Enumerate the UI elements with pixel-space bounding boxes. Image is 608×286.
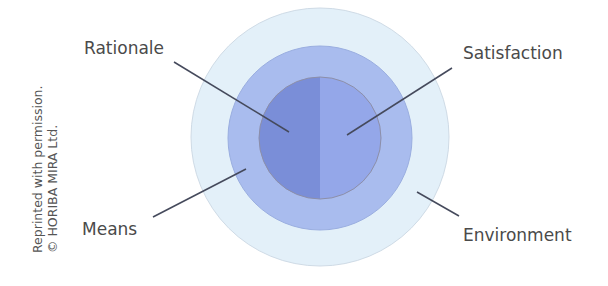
environment-label: Environment <box>463 227 572 244</box>
credit-line-1: Reprinted with permission. <box>30 85 45 253</box>
rationale-label: Rationale <box>84 40 164 57</box>
means-label: Means <box>82 221 137 238</box>
satisfaction-label: Satisfaction <box>463 45 563 62</box>
credit-line-2: © HORIBA MIRA Ltd. <box>45 85 60 253</box>
copyright-credit: Reprinted with permission. © HORIBA MIRA… <box>30 85 60 253</box>
